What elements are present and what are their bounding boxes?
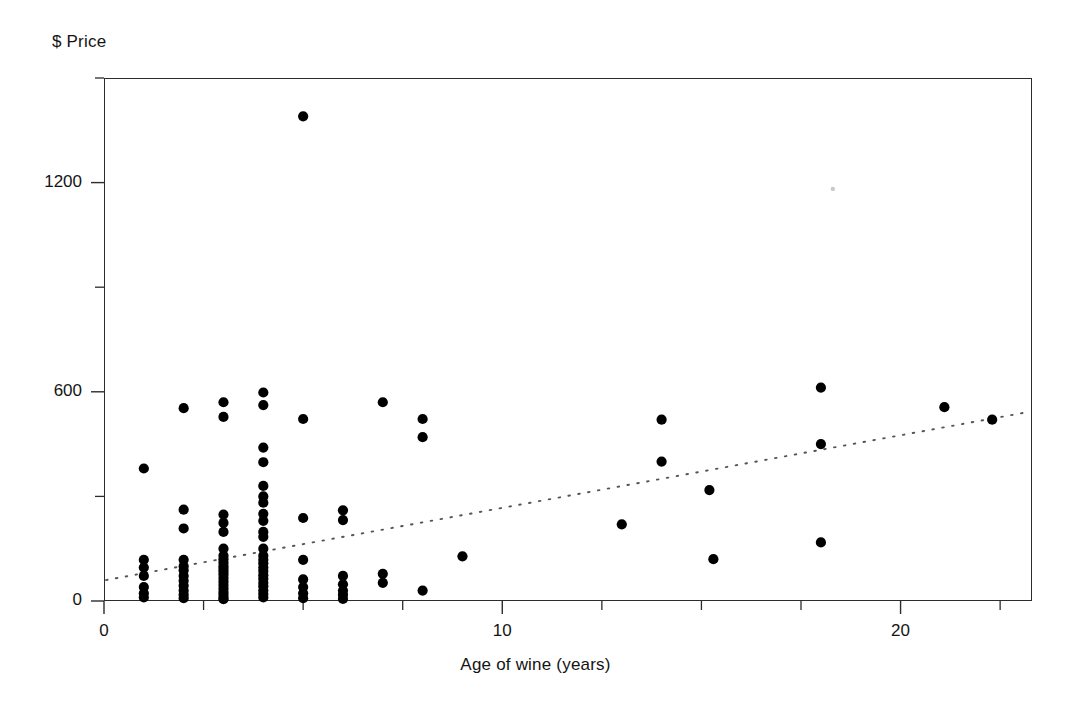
y-tick-label: 0 <box>12 590 82 610</box>
trendline <box>106 412 1030 580</box>
data-points <box>139 111 998 604</box>
faint-specks <box>831 187 835 191</box>
x-tick-label: 20 <box>871 621 931 641</box>
chart-overlay <box>0 0 1071 722</box>
y-tick-label: 1200 <box>12 172 82 192</box>
y-tick-label: 600 <box>12 381 82 401</box>
x-tick-label: 0 <box>74 621 134 641</box>
x-tick-label: 10 <box>472 621 532 641</box>
chart-canvas: $ Price Age of wine (years) 06001200 010… <box>0 0 1071 722</box>
